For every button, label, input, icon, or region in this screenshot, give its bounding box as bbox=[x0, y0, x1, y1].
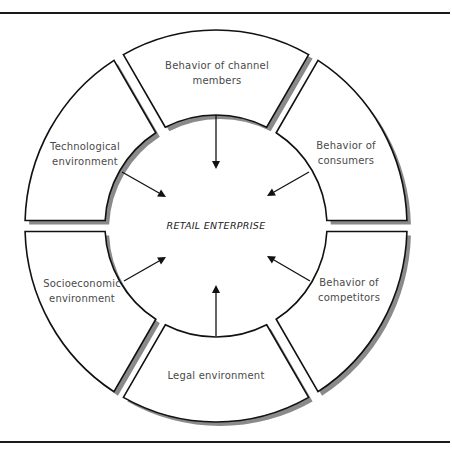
arrow-competitors bbox=[274, 260, 310, 281]
label-line: members bbox=[193, 75, 242, 86]
label-line: Behavior of bbox=[316, 140, 376, 151]
label-line: environment bbox=[52, 156, 118, 167]
label-line: competitors bbox=[318, 292, 380, 303]
retail-environment-diagram: Behavior of channelmembersBehavior ofcon… bbox=[0, 0, 452, 453]
label-line: Behavior of channel bbox=[165, 60, 269, 71]
label-legal: Legal environment bbox=[167, 370, 264, 381]
arrow-technological bbox=[122, 172, 159, 193]
arrowhead-icon bbox=[212, 285, 220, 293]
label-line: Socioeconomic bbox=[43, 278, 121, 289]
segment-competitors bbox=[276, 232, 407, 392]
label-line: Behavior of bbox=[319, 277, 379, 288]
arrow-consumers bbox=[274, 172, 309, 192]
label-line: environment bbox=[49, 293, 115, 304]
segment-socioeconomic bbox=[25, 232, 156, 392]
center-label: RETAIL ENTERPRISE bbox=[167, 220, 266, 231]
arrowhead-icon bbox=[212, 161, 220, 169]
arrow-socioeconomic bbox=[124, 261, 159, 281]
label-line: Technological bbox=[49, 141, 120, 152]
label-line: Legal environment bbox=[167, 370, 264, 381]
label-line: consumers bbox=[318, 155, 375, 166]
